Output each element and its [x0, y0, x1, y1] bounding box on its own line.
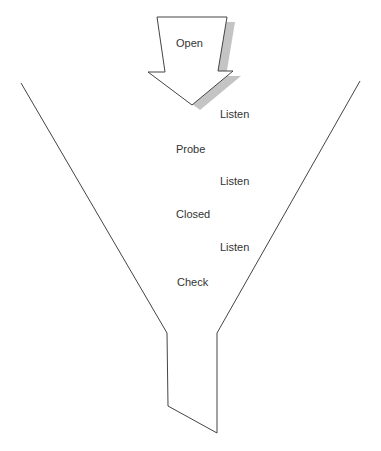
- stage-listen-3: Listen: [220, 241, 249, 253]
- stage-listen-2: Listen: [220, 175, 249, 187]
- stage-listen-1: Listen: [220, 108, 249, 120]
- stage-closed: Closed: [176, 208, 210, 220]
- arrow-label-open: Open: [176, 37, 203, 49]
- funnel-outline-left: [21, 81, 360, 433]
- funnel-diagram: [0, 0, 381, 451]
- stage-probe: Probe: [176, 143, 205, 155]
- stage-check: Check: [177, 276, 208, 288]
